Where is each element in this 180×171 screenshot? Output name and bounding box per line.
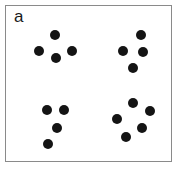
data-point bbox=[43, 139, 53, 149]
data-point bbox=[52, 123, 62, 133]
data-point bbox=[128, 63, 138, 73]
data-point bbox=[136, 30, 146, 40]
data-point bbox=[112, 114, 122, 124]
data-point bbox=[59, 105, 69, 115]
data-point bbox=[128, 98, 138, 108]
data-point bbox=[138, 47, 148, 57]
data-point bbox=[50, 30, 60, 40]
data-point bbox=[42, 105, 52, 115]
data-point bbox=[67, 46, 77, 56]
data-point bbox=[145, 106, 155, 116]
data-point bbox=[137, 123, 147, 133]
data-point bbox=[118, 46, 128, 56]
data-point bbox=[34, 46, 44, 56]
scatter-figure-panel-a: a bbox=[0, 0, 180, 171]
data-point bbox=[51, 53, 61, 63]
data-point bbox=[121, 132, 131, 142]
scatter-points-layer bbox=[0, 0, 180, 171]
